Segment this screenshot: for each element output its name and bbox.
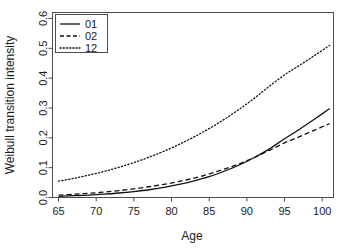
x-tick-label: 95 <box>278 205 290 217</box>
weibull-transition-intensity-chart: 0.00.10.20.30.40.50.6 65707580859095100 … <box>0 0 345 250</box>
x-tick-label: 75 <box>128 205 140 217</box>
y-tick-label: 0.3 <box>37 100 49 115</box>
chart-legend: 01 02 12 <box>56 15 108 54</box>
legend-label-12: 12 <box>85 42 97 54</box>
y-tick-label: 0.2 <box>37 130 49 145</box>
y-tick-label: 0.0 <box>37 190 49 205</box>
x-tick-label: 65 <box>52 205 64 217</box>
x-axis-title: Age <box>181 229 203 243</box>
figure-container: 0.00.10.20.30.40.50.6 65707580859095100 … <box>0 0 345 250</box>
legend-label-02: 02 <box>85 30 97 42</box>
y-axis-title: Weibull transition intensity <box>3 36 17 175</box>
y-tick-label: 0.1 <box>37 160 49 175</box>
x-tick-label: 85 <box>203 205 215 217</box>
y-tick-label: 0.5 <box>37 41 49 56</box>
y-tick-label: 0.6 <box>37 11 49 26</box>
x-tick-label: 80 <box>165 205 177 217</box>
x-tick-label: 70 <box>90 205 102 217</box>
y-tick-label: 0.4 <box>37 70 49 85</box>
legend-label-01: 01 <box>85 18 97 30</box>
legend-box <box>56 15 108 53</box>
x-tick-label: 90 <box>241 205 253 217</box>
x-tick-label: 100 <box>313 205 331 217</box>
